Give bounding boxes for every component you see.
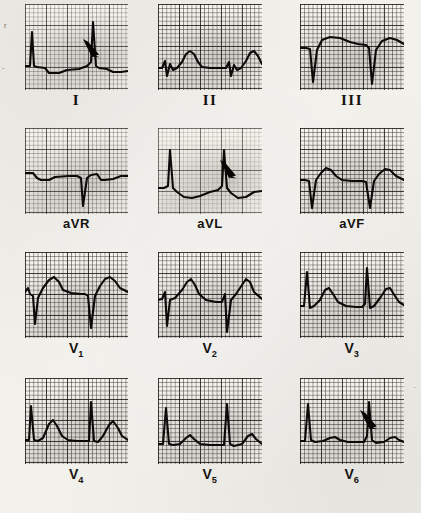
lead-label-text: V <box>203 340 213 356</box>
lead-label-text: II <box>203 92 218 108</box>
ecg-panel-v6 <box>300 378 404 464</box>
ecg-trace-iii <box>300 4 404 90</box>
lead-label-v3: V3 <box>300 341 404 359</box>
lead-label-avf: aVF <box>300 217 404 230</box>
lead-label-ii: II <box>158 93 262 108</box>
lead-label-text: aVR <box>63 216 90 231</box>
lead-label-subscript: 4 <box>78 475 84 485</box>
lead-cell-v3: V3 <box>300 252 404 359</box>
lead-label-v5: V5 <box>158 467 262 485</box>
lead-cell-v1: V1 <box>25 252 128 359</box>
lead-label-text: aVL <box>197 216 222 231</box>
ecg-panel-avf <box>300 128 404 214</box>
lead-cell-avr: aVR <box>25 128 128 230</box>
ecg-panel-v2 <box>158 252 262 338</box>
ecg-trace-avf <box>300 128 404 214</box>
ecg-trace-v1 <box>25 252 128 338</box>
lead-cell-v5: V5 <box>158 378 262 485</box>
lead-label-text: III <box>341 92 363 108</box>
ecg-trace-v4 <box>25 378 128 464</box>
stray-scan-mark: - <box>2 64 4 71</box>
lead-label-subscript: 5 <box>212 475 218 485</box>
lead-label-text: V <box>345 340 355 356</box>
lead-label-subscript: 1 <box>78 349 84 359</box>
ecg-trace-i <box>25 4 128 90</box>
lead-cell-avl: aVL <box>158 128 262 230</box>
lead-label-text: V <box>345 466 355 482</box>
ecg-trace-ii <box>158 4 262 90</box>
annotation-arrow-icon <box>81 37 108 68</box>
ecg-panel-v3 <box>300 252 404 338</box>
lead-label-text: I <box>73 92 80 108</box>
lead-label-i: I <box>25 93 128 108</box>
lead-label-subscript: 6 <box>354 475 360 485</box>
lead-cell-v4: V4 <box>25 378 128 485</box>
ecg-panel-iii <box>300 4 404 90</box>
lead-label-v6: V6 <box>300 467 404 485</box>
lead-cell-avf: aVF <box>300 128 404 230</box>
lead-label-iii: III <box>300 93 404 108</box>
ecg-panel-v1 <box>25 252 128 338</box>
ecg-trace-v6 <box>300 378 404 464</box>
ecg-panel-v4 <box>25 378 128 464</box>
ecg-panel-ii <box>158 4 262 90</box>
lead-cell-v2: V2 <box>158 252 262 359</box>
ecg-panel-avr <box>25 128 128 214</box>
ecg-trace-v2 <box>158 252 262 338</box>
stray-scan-mark: . <box>414 382 416 389</box>
ecg-trace-v5 <box>158 378 262 464</box>
lead-cell-i: I <box>25 4 128 108</box>
lead-label-v4: V4 <box>25 467 128 485</box>
lead-label-avl: aVL <box>158 217 262 230</box>
lead-label-text: V <box>203 466 213 482</box>
lead-cell-iii: III <box>300 4 404 108</box>
ecg-trace-v3 <box>300 252 404 338</box>
ecg-trace-avr <box>25 128 128 214</box>
lead-label-text: aVF <box>339 216 364 231</box>
annotation-arrow-icon <box>358 408 386 440</box>
lead-label-avr: aVR <box>25 217 128 230</box>
annotation-arrow-icon <box>218 158 245 189</box>
lead-cell-v6: V6 <box>300 378 404 485</box>
lead-label-v1: V1 <box>25 341 128 359</box>
lead-label-subscript: 2 <box>212 349 218 359</box>
ecg-panel-i <box>25 4 128 90</box>
lead-label-subscript: 3 <box>354 349 360 359</box>
stray-scan-mark: r <box>4 22 6 29</box>
ecg-panel-v5 <box>158 378 262 464</box>
lead-label-v2: V2 <box>158 341 262 359</box>
ecg-panel-avl <box>158 128 262 214</box>
lead-cell-ii: II <box>158 4 262 108</box>
ecg-trace-avl <box>158 128 262 214</box>
